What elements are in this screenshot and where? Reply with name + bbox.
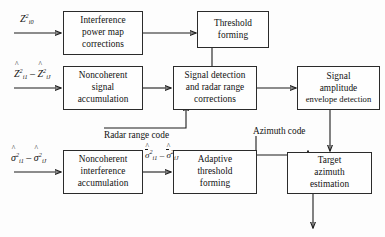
box-threshold-forming[interactable]: Threshold forming [197, 11, 269, 48]
box-interference-power-map-corrections[interactable]: Interference power map corrections [63, 11, 143, 55]
box-target-azimuth-estimation[interactable]: Target azimuth estimation [287, 152, 372, 194]
math-label-sigma-bar-range: σ2i1 – σ2iJ [145, 150, 178, 160]
box-signal-amplitude-envelope-detection[interactable]: Signal amplitude envelope detection [297, 66, 380, 110]
box-line: azimuth [314, 167, 344, 179]
box-line: accumulation [78, 178, 129, 190]
box-signal-detection-and-radar-range-corrections[interactable]: Signal detection and radar range correct… [173, 66, 257, 110]
box-line: Target [318, 155, 342, 167]
box-line: Signal [326, 71, 350, 83]
box-line: and radar range [186, 82, 245, 94]
box-line: forming [218, 30, 248, 42]
box-line: estimation [310, 179, 349, 191]
label-azimuth-code: Azimuth code [253, 126, 305, 137]
box-line: power map [82, 27, 124, 39]
box-noncoherent-interference-accumulation[interactable]: Noncoherent interference accumulation [63, 150, 143, 194]
box-line: amplitude [320, 83, 358, 95]
box-line: corrections [194, 94, 236, 106]
label-radar-range-code: Radar range code [104, 130, 169, 141]
block-diagram: Interference power map corrections Thres… [0, 0, 385, 237]
box-line: Threshold [214, 18, 252, 30]
box-line: Signal detection [185, 70, 246, 82]
box-line: threshold [197, 166, 232, 178]
box-line: interference [81, 166, 126, 178]
box-line: forming [200, 178, 230, 190]
math-label-input-z-i0: Z2i0 [20, 13, 33, 24]
connector-wires [0, 0, 385, 237]
math-label-input-z-range: Z2i1 – Z2iJ [14, 68, 51, 79]
box-line: envelope detection [306, 94, 372, 105]
box-line: signal [92, 82, 115, 94]
box-line: corrections [82, 39, 124, 51]
box-line: Noncoherent [79, 154, 128, 166]
box-line: Adaptive [198, 154, 232, 166]
box-line: Interference [80, 15, 126, 27]
box-adaptive-threshold-forming[interactable]: Adaptive threshold forming [173, 150, 257, 194]
box-line: accumulation [78, 94, 129, 106]
box-line: Noncoherent [79, 70, 128, 82]
math-label-input-sigma-range: σ2i1 – σ2iJ [11, 152, 46, 163]
box-noncoherent-signal-accumulation[interactable]: Noncoherent signal accumulation [63, 66, 143, 110]
